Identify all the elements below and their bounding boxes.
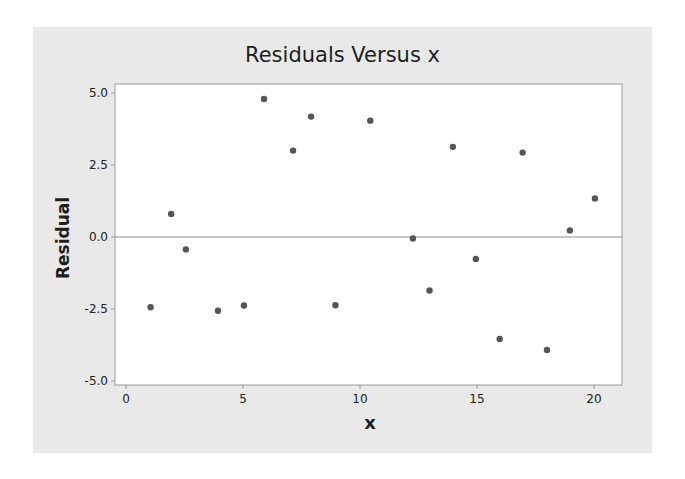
data-point (544, 347, 550, 353)
x-tick-label: 20 (586, 392, 601, 406)
y-tick-label: 2.5 (89, 158, 108, 172)
y-axis: 5.02.50.0-2.5-5.0 (85, 86, 115, 388)
data-point (367, 117, 373, 123)
y-tick-label: -5.0 (85, 374, 108, 388)
data-point (567, 227, 573, 233)
data-point (308, 113, 314, 119)
data-point (215, 308, 221, 314)
x-tick-label: 15 (469, 392, 484, 406)
data-point (519, 149, 525, 155)
data-point (261, 96, 267, 102)
data-point (183, 246, 189, 252)
x-axis: 05101520 (122, 385, 601, 406)
data-point (332, 302, 338, 308)
data-point (410, 235, 416, 241)
y-tick-label: 0.0 (89, 230, 108, 244)
y-tick-label: -2.5 (85, 302, 108, 316)
x-tick-label: 10 (352, 392, 367, 406)
y-tick-label: 5.0 (89, 86, 108, 100)
data-point (241, 302, 247, 308)
data-point (496, 336, 502, 342)
data-point (426, 287, 432, 293)
data-point (290, 147, 296, 153)
data-point (147, 304, 153, 310)
plot-area (115, 84, 622, 385)
x-tick-label: 5 (239, 392, 247, 406)
data-point (168, 211, 174, 217)
x-tick-label: 0 (122, 392, 130, 406)
data-point (592, 195, 598, 201)
data-point (473, 256, 479, 262)
data-point (450, 144, 456, 150)
scatter-plot: 5.02.50.0-2.5-5.0 05101520 (0, 0, 685, 479)
